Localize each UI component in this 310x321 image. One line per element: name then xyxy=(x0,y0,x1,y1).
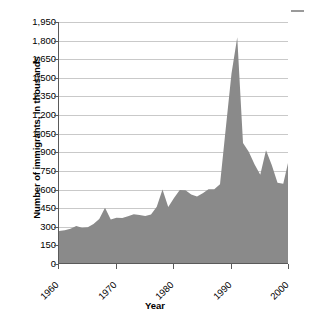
y-axis-tick-label: 450 xyxy=(10,202,56,213)
x-axis-tick-mark xyxy=(173,264,174,269)
x-axis-tick-mark xyxy=(58,264,59,269)
immigration-area-chart: Number of immigrants, in thousands 1,950… xyxy=(0,0,310,321)
y-axis-tick-label: 1,500 xyxy=(10,72,56,83)
x-axis-tick-label: 1980 xyxy=(153,279,176,302)
y-axis-tick-label: 1,800 xyxy=(10,35,56,46)
x-axis-tick-mark xyxy=(116,264,117,269)
y-axis-tick-label: 150 xyxy=(10,239,56,250)
y-axis-tick-label: 750 xyxy=(10,165,56,176)
x-axis-tick-label: 1990 xyxy=(211,279,234,302)
y-axis-tick-label: 1,950 xyxy=(10,16,56,27)
y-axis-tick-label: 900 xyxy=(10,146,56,157)
area-series xyxy=(59,22,288,264)
x-axis-tick-label: 1960 xyxy=(38,279,61,302)
plot-area xyxy=(58,22,288,264)
y-axis-tick-label: 1,050 xyxy=(10,128,56,139)
x-axis-tick-mark xyxy=(288,264,289,269)
x-axis-tick-label: 1970 xyxy=(96,279,119,302)
x-axis-title: Year xyxy=(0,300,310,311)
y-axis-tick-label: 600 xyxy=(10,184,56,195)
x-axis-tick-label: 2000 xyxy=(268,279,291,302)
corner-dash-mark xyxy=(291,10,304,12)
y-axis-tick-label: 300 xyxy=(10,221,56,232)
y-axis-tick-label: 1,350 xyxy=(10,90,56,101)
y-axis-tick-label: 1,200 xyxy=(10,109,56,120)
y-axis-tick-label: 1,650 xyxy=(10,53,56,64)
x-axis-tick-mark xyxy=(231,264,232,269)
y-axis-tick-label: 0 xyxy=(10,258,56,269)
